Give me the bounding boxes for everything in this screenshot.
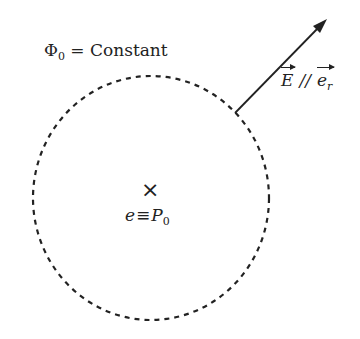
point-subscript: 0	[163, 215, 170, 228]
field-direction-label: E//er	[281, 70, 332, 93]
point-symbol: P	[151, 205, 162, 225]
equipotential-diagram: Φ0 = Constant × e≡P0 E//er	[0, 0, 360, 339]
equivalence-symbol: ≡	[136, 205, 150, 225]
constant-text: = Constant	[65, 40, 168, 60]
equipotential-label: Φ0 = Constant	[44, 40, 168, 63]
center-point-label: e≡P0	[125, 205, 170, 228]
electric-field-vector: E	[281, 70, 293, 90]
phi-subscript: 0	[58, 50, 65, 63]
cross-icon: ×	[141, 179, 159, 201]
charge-symbol: e	[125, 205, 135, 225]
phi-symbol: Φ	[44, 40, 58, 60]
parallel-symbol: //	[299, 70, 310, 90]
radial-unit-vector: er	[317, 70, 332, 93]
